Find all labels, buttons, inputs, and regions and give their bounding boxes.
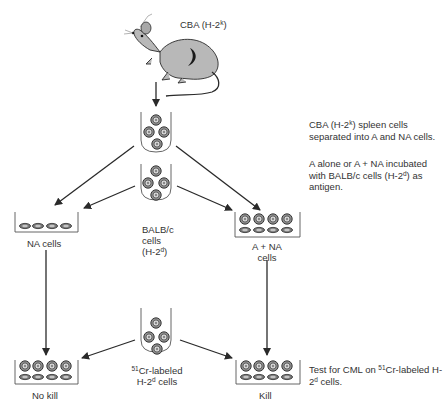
cba-spleen-tube xyxy=(141,112,171,152)
cr51-labeled-tube xyxy=(141,308,171,354)
a-na-cells-label: A + NA cells xyxy=(245,241,289,263)
arrow-balbc-to-na xyxy=(84,186,135,208)
no-kill-well xyxy=(15,360,78,384)
arrow-balbc-to-a-na xyxy=(177,186,232,210)
na-cells-well xyxy=(15,212,78,232)
step-2-description: A alone or A + NA incubated with BALB/c … xyxy=(309,158,443,193)
balbc-tube xyxy=(141,164,171,200)
arrow-cr51-to-kill xyxy=(180,340,232,358)
arrow-spleen-to-na xyxy=(55,146,134,205)
cr51-label: 51Cr-labeled H-2d cells xyxy=(128,365,186,387)
na-cells-label: NA cells xyxy=(27,238,61,249)
balbc-label: BALB/c cells (H-2d) xyxy=(142,224,174,257)
kill-label: Kill xyxy=(259,390,272,401)
a-na-cells-well xyxy=(235,212,300,237)
step-3-description: Test for CML on 51Cr-labeled H-2d cells. xyxy=(309,364,443,387)
arrow-spleen-to-a-na xyxy=(176,146,260,210)
arrow-cr51-to-no-kill xyxy=(82,340,135,358)
no-kill-label: No kill xyxy=(32,390,58,401)
mouse-label: CBA (H-2k) xyxy=(180,19,227,30)
kill-well xyxy=(236,360,300,384)
diagram-canvas xyxy=(0,0,445,410)
step-1-description: CBA (H-2k) spleen cells separated into A… xyxy=(309,119,443,142)
